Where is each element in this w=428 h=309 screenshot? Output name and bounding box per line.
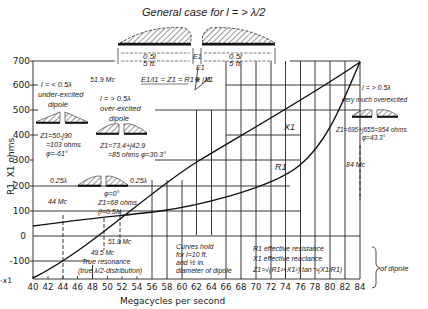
over-excited-dipole: dipole: [109, 114, 129, 123]
over-excited-label: over-excited: [100, 104, 142, 113]
note-line-3: and ½ in.: [176, 259, 205, 266]
under-excited-label: under-excited: [38, 90, 84, 99]
svg-text:54: 54: [132, 282, 143, 292]
res-z: Z1=68 ohms: [97, 199, 138, 206]
small-dipole-icons: [36, 110, 398, 187]
svg-text:64: 64: [206, 282, 217, 292]
under-excited-condition: l = < 0.5λ: [41, 80, 72, 89]
svg-text:48: 48: [87, 282, 98, 292]
under-excited-zmag: =103 ohms: [46, 141, 81, 148]
svg-text:56: 56: [147, 282, 158, 292]
freq-49-5: 49.5 Mc: [91, 249, 115, 256]
legend-brace: [372, 247, 380, 288]
svg-text:700: 700: [13, 56, 30, 66]
right-length-ft: 5 ft.: [229, 59, 242, 68]
res-right-quarter: 0.25λ: [130, 177, 148, 184]
svg-text:46: 46: [72, 282, 83, 292]
svg-text:76: 76: [295, 282, 306, 292]
over-excited-condition: l = > 0.5λ: [100, 94, 131, 103]
legend-r1: R1 effective resistance: [253, 245, 324, 252]
svg-text:100: 100: [13, 206, 30, 216]
left-length-ft: 5 ft.: [143, 59, 156, 68]
svg-text:600: 600: [13, 80, 30, 90]
over-excited-freq: 51.9 Mc: [90, 76, 115, 83]
svg-text:62: 62: [191, 282, 202, 292]
gap-e1: E1: [193, 53, 202, 60]
legend-of-dipole: of dipole: [380, 264, 408, 273]
neg-x-label: -x1: [0, 276, 12, 285]
note-line-2: for l=10 ft.: [176, 251, 207, 258]
y-axis-label: R1, X1 ohms: [6, 138, 16, 195]
svg-text:500: 500: [13, 105, 30, 115]
under-excited-phi: φ=-61°: [46, 150, 68, 158]
res-cond: (l=0.5λ): [98, 208, 121, 216]
svg-text:68: 68: [236, 282, 247, 292]
res-left-quarter: 0.25λ: [50, 177, 68, 184]
true-resonance-dist: (true λ/2-distribution): [78, 267, 142, 275]
very-over-label: very much overexcited: [342, 96, 407, 104]
over-excited-zmag: =85 ohms φ=30.3°: [108, 151, 166, 159]
curve-label-x1: X1: [283, 122, 295, 132]
svg-text:52: 52: [117, 282, 128, 292]
chart-title-a: General case for l = > λ/2: [142, 6, 265, 18]
svg-text:42: 42: [43, 282, 54, 292]
note-line-4: diameter of dipole: [176, 267, 232, 275]
svg-text:72: 72: [266, 282, 277, 292]
res-phi: φ=0°: [104, 190, 120, 198]
very-over-z: Z1=695+j655=954 ohms: [335, 126, 407, 134]
svg-text:60: 60: [177, 282, 188, 292]
over-excited-z: Z1=73.4+j42.9: [99, 142, 145, 150]
svg-text:58: 58: [162, 282, 173, 292]
svg-text:44: 44: [58, 282, 69, 292]
svg-text:74: 74: [280, 282, 291, 292]
freq-51-9: 51.9 Mc: [108, 238, 132, 245]
true-resonance: True resonance: [82, 258, 131, 265]
svg-text:-100: -100: [10, 256, 31, 266]
under-excited-z: Z1=50-j90: [39, 132, 72, 140]
svg-text:82: 82: [340, 282, 351, 292]
x-axis-label: Megacycles per second: [120, 296, 225, 306]
svg-text:70: 70: [251, 282, 262, 292]
svg-text:84: 84: [355, 282, 366, 292]
svg-text:50: 50: [102, 282, 113, 292]
freq-44: 44 Mc: [48, 198, 68, 205]
svg-text:78: 78: [310, 282, 321, 292]
svg-text:80: 80: [325, 282, 336, 292]
impedance-eq: E1/I1 = Z1 = R1 ± jX1: [141, 75, 213, 84]
very-over-condition: l = > 0.5λ: [362, 84, 391, 91]
x-tick-labels: 40 42 44 46 48 50 52 54 56 58 60 62 64 6…: [28, 282, 366, 292]
svg-text:0: 0: [20, 231, 26, 241]
under-excited-dipole: dipole: [48, 100, 68, 109]
very-over-phi: φ=43.3°: [362, 134, 386, 142]
svg-text:66: 66: [221, 282, 232, 292]
freq-84: 84 Mc: [346, 161, 366, 168]
curve-label-r1: R1: [275, 162, 287, 172]
phasor-e: E1: [196, 64, 205, 71]
chart-canvas: General case for l = > λ/2 0.5l 5 ft. 0.…: [0, 0, 428, 309]
svg-text:40: 40: [28, 282, 39, 292]
note-line-1: Curves hold: [176, 243, 214, 250]
legend-x1: X1 effective reactance: [252, 255, 322, 262]
legend-z1: Z1=√(R1²+X1²) tan⁻¹(X1/R1): [252, 266, 342, 274]
